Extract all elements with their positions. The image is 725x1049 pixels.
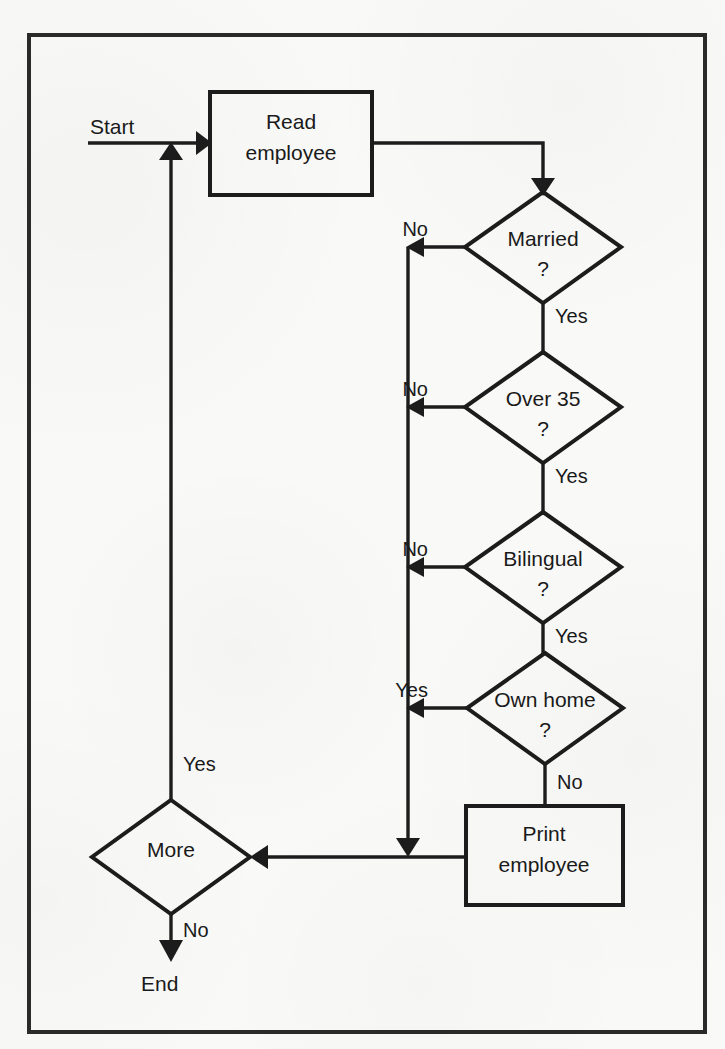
arrowhead-bypass-into-more-line (396, 838, 420, 857)
print-employee-label-line1: Print (522, 822, 565, 845)
flowchart-page: Start Read employee Married ? No (0, 0, 725, 1049)
bilingual-yes-label: Yes (555, 625, 588, 647)
decision-bilingual: Bilingual ? (465, 512, 621, 623)
bilingual-label-line2: ? (537, 577, 549, 600)
more-label: More (147, 838, 195, 861)
married-yes-label: Yes (555, 305, 588, 327)
decision-more: More (92, 800, 250, 914)
married-no-label: No (402, 218, 428, 240)
married-label-line1: Married (507, 227, 578, 250)
over35-no-label: No (402, 378, 428, 400)
edge-more-no (159, 914, 183, 962)
decision-married: Married ? (465, 192, 621, 303)
end-terminal-label: End (141, 972, 178, 995)
decision-own-home: Own home ? (467, 653, 623, 764)
edge-print-to-more (250, 845, 466, 869)
bilingual-no-label: No (402, 538, 428, 560)
process-read-employee: Read employee (210, 92, 372, 195)
process-print-employee: Print employee (466, 806, 623, 905)
edge-read-to-married (372, 143, 555, 196)
married-label-line2: ? (537, 257, 549, 280)
flowchart-canvas: Start Read employee Married ? No (0, 0, 725, 1049)
over35-yes-label: Yes (555, 465, 588, 487)
arrowhead-into-end (159, 940, 183, 962)
over35-label-line2: ? (537, 417, 549, 440)
own-home-yes-label: Yes (395, 679, 428, 701)
print-employee-label-line2: employee (498, 853, 589, 876)
own-home-label-line2: ? (539, 718, 551, 741)
start-terminal-label: Start (90, 115, 135, 138)
over35-label-line1: Over 35 (506, 387, 581, 410)
own-home-no-label: No (557, 771, 583, 793)
decision-over35: Over 35 ? (465, 352, 621, 463)
read-employee-label-line2: employee (245, 141, 336, 164)
read-employee-label-line1: Read (266, 110, 316, 133)
more-yes-label: Yes (183, 753, 216, 775)
edge-more-yes-loop (159, 142, 183, 800)
own-home-label-line1: Own home (494, 688, 596, 711)
more-no-label: No (183, 919, 209, 941)
bilingual-label-line1: Bilingual (503, 547, 582, 570)
